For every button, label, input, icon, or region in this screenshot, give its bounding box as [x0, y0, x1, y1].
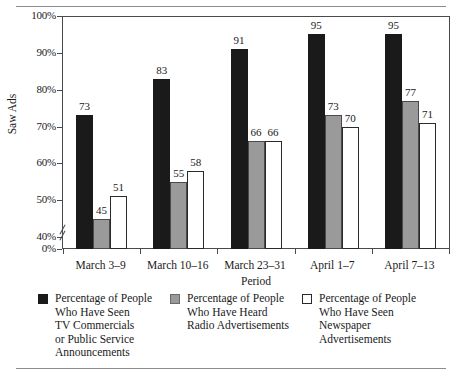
y-tick-label: 80% [10, 84, 56, 95]
plot-area: Saw Ads 0%40%50%60%70%80%90%100% 7345518… [0, 12, 462, 260]
x-axis-tick-labels: March 3–9March 10–16March 23–31April 1–7… [62, 258, 450, 276]
bar-value-label: 66 [251, 127, 262, 138]
bar-news: 58 [187, 171, 204, 249]
x-tick-mark [63, 249, 64, 254]
bar-news: 51 [110, 196, 127, 249]
chart-legend: Percentage of People Who Have Seen TV Co… [0, 292, 462, 366]
top-divider-rule [16, 6, 446, 7]
y-tick-label: 50% [10, 194, 56, 205]
bar-group: 957771 [385, 16, 436, 249]
bar-tv: 95 [385, 34, 402, 249]
x-tick-mark [217, 249, 218, 254]
y-tick-label: 100% [10, 10, 56, 21]
x-tick-mark [295, 249, 296, 254]
y-tick-mark [57, 249, 62, 250]
y-tick-mark [57, 53, 62, 54]
legend-label-tv: Percentage of People Who Have Seen TV Co… [55, 292, 152, 360]
x-tick-mark [449, 249, 450, 254]
legend-swatch-newspaper-icon [302, 294, 312, 304]
bar-group: 835558 [153, 16, 204, 249]
bar-value-label: 71 [422, 109, 433, 120]
legend-item-radio: Percentage of People Who Have Heard Radi… [170, 292, 289, 333]
bar-tv: 83 [153, 79, 170, 249]
y-tick-mark [57, 163, 62, 164]
y-tick-mark [57, 16, 62, 17]
bar-value-label: 73 [79, 101, 90, 112]
legend-label-radio: Percentage of People Who Have Heard Radi… [187, 292, 289, 333]
bar-value-label: 58 [190, 157, 201, 168]
legend-swatch-tv-icon [38, 294, 48, 304]
x-axis-title: Period [62, 275, 450, 287]
bar-value-label: 73 [328, 101, 339, 112]
x-tick-label: April 7–13 [384, 258, 434, 272]
bar-group: 916666 [231, 16, 282, 249]
bar-tv: 73 [76, 115, 93, 249]
x-tick-label: March 10–16 [147, 258, 209, 272]
x-tick-label: March 23–31 [224, 258, 286, 272]
y-tick-label: 60% [10, 157, 56, 168]
figure-container: Saw Ads 0%40%50%60%70%80%90%100% 7345518… [0, 0, 462, 376]
bottom-divider-rule [16, 368, 446, 369]
y-tick-label: 0% [10, 243, 56, 254]
legend-item-newspaper: Percentage of People Who Have Seen Newsp… [302, 292, 416, 346]
y-axis-tick-labels: 0%40%50%60%70%80%90%100% [6, 12, 56, 260]
y-tick-label: 90% [10, 47, 56, 58]
y-tick-mark [57, 237, 62, 238]
legend-label-newspaper: Percentage of People Who Have Seen Newsp… [319, 292, 416, 346]
bar-value-label: 95 [388, 20, 399, 31]
y-tick-label: 40% [10, 231, 56, 242]
bar-radio: 73 [325, 115, 342, 249]
bar-radio: 66 [248, 141, 265, 249]
x-tick-label: March 3–9 [76, 258, 126, 272]
bar-news: 70 [342, 127, 359, 250]
bar-value-label: 95 [311, 20, 322, 31]
bar-value-label: 83 [156, 65, 167, 76]
bar-radio: 77 [402, 101, 419, 249]
bar-value-label: 45 [96, 205, 107, 216]
y-tick-mark [57, 127, 62, 128]
bars-layer: 734551835558916666957370957771 [63, 16, 449, 249]
x-tick-mark [140, 249, 141, 254]
x-axis-tick-marks [63, 249, 450, 255]
bar-radio: 45 [93, 219, 110, 249]
x-tick-mark [372, 249, 373, 254]
bar-value-label: 51 [113, 182, 124, 193]
bar-value-label: 91 [234, 35, 245, 46]
y-tick-mark [57, 90, 62, 91]
bar-value-label: 77 [405, 87, 416, 98]
bar-value-label: 70 [345, 113, 356, 124]
y-tick-label: 70% [10, 121, 56, 132]
y-tick-mark [57, 200, 62, 201]
bar-radio: 55 [170, 182, 187, 249]
bar-tv: 91 [231, 49, 248, 249]
bar-tv: 95 [308, 34, 325, 249]
bar-value-label: 55 [173, 168, 184, 179]
x-tick-label: April 1–7 [310, 258, 354, 272]
bar-group: 957370 [308, 16, 359, 249]
bar-news: 71 [419, 123, 436, 249]
legend-item-tv: Percentage of People Who Have Seen TV Co… [38, 292, 152, 360]
bar-value-label: 66 [268, 127, 279, 138]
bar-group: 734551 [76, 16, 127, 249]
legend-swatch-radio-icon [170, 294, 180, 304]
bar-news: 66 [265, 141, 282, 249]
